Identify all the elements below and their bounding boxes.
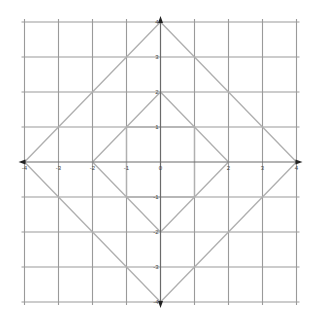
x-tick-label: 2 <box>227 165 231 171</box>
arrow-right-icon <box>296 160 303 165</box>
x-tick-label: 3 <box>261 165 265 171</box>
x-tick-label: 0 <box>159 165 163 171</box>
y-tick-label: -3 <box>153 264 159 270</box>
y-tick-label: -1 <box>153 194 159 200</box>
x-tick-label: 4 <box>295 165 299 171</box>
arrow-down-icon <box>158 301 163 308</box>
x-tick-label: -1 <box>124 165 130 171</box>
axes <box>19 16 303 308</box>
y-tick-label: -4 <box>153 299 159 305</box>
x-tick-label: -3 <box>56 165 62 171</box>
arrow-left-icon <box>19 160 26 165</box>
coordinate-plane: -4-3-2-102344321-1-2-3-4 <box>0 0 320 326</box>
x-tick-label: -4 <box>22 165 28 171</box>
arrow-up-icon <box>158 16 163 23</box>
y-tick-label: -2 <box>153 229 159 235</box>
x-tick-label: -2 <box>90 165 96 171</box>
